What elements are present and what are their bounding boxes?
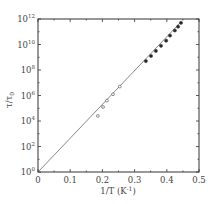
x-tick-label: 0: [35, 175, 40, 185]
x-tick-label: 0.2: [96, 175, 110, 185]
open-data-point: [96, 115, 99, 118]
x-tick-label: 0.1: [63, 175, 77, 185]
filled-data-point: [173, 29, 176, 32]
y-tick-label: 104: [21, 115, 36, 126]
axis-ticks: [38, 19, 199, 172]
filled-data-point: [154, 49, 157, 52]
filled-data-point: [168, 34, 171, 37]
chart-canvas: 10010210410610810101012 00.10.20.30.40.5…: [0, 0, 219, 204]
y-tick-labels: 10010210410610810101012: [17, 13, 35, 177]
open-data-point: [118, 85, 121, 88]
filled-data-point: [149, 54, 152, 57]
y-tick-label: 100: [21, 166, 36, 177]
filled-data-point: [144, 59, 147, 62]
y-axis-label: τ/τ0: [4, 92, 15, 108]
plot-frame: [38, 19, 199, 172]
x-tick-label: 0.4: [160, 175, 174, 185]
filled-data-point: [165, 39, 168, 42]
x-tick-label: 0.3: [128, 175, 142, 185]
x-axis-label: 1/T (K-1): [100, 185, 136, 196]
fit-line: [38, 22, 181, 172]
data-points: [96, 21, 182, 117]
filled-data-point: [159, 44, 162, 47]
y-tick-label: 108: [21, 64, 36, 75]
x-tick-labels: 00.10.20.30.40.5: [35, 175, 205, 185]
y-tick-label: 1012: [17, 13, 35, 24]
x-tick-label: 0.5: [192, 175, 206, 185]
open-data-point: [112, 93, 115, 96]
open-data-point: [102, 106, 105, 109]
y-tick-label: 1010: [17, 39, 35, 50]
y-tick-label: 102: [21, 141, 35, 152]
y-tick-label: 106: [21, 90, 36, 101]
filled-data-point: [176, 25, 179, 28]
open-data-point: [106, 99, 109, 102]
filled-data-point: [179, 21, 182, 24]
